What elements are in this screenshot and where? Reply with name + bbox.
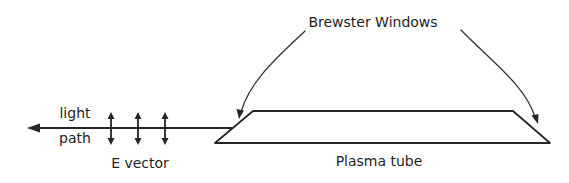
arrow-down-icon bbox=[532, 114, 539, 124]
path-label: path bbox=[59, 130, 91, 146]
left-window-pointer bbox=[237, 31, 306, 119]
right-window-pointer bbox=[461, 30, 539, 124]
brewster-window-laser-diagram: Brewster Windows light path E vector Pla… bbox=[0, 0, 569, 183]
right-pointer-curve bbox=[461, 30, 535, 117]
e-vector-label: E vector bbox=[111, 155, 169, 171]
light-path-arrow bbox=[27, 124, 232, 133]
arrow-down-icon bbox=[237, 109, 245, 119]
plasma-tube-shape bbox=[215, 111, 550, 143]
diagram-canvas: Brewster Windows light path E vector Pla… bbox=[0, 0, 569, 183]
light-label: light bbox=[59, 105, 91, 121]
arrow-left-icon bbox=[27, 124, 40, 133]
brewster-windows-label: Brewster Windows bbox=[308, 14, 437, 30]
plasma-tube-label: Plasma tube bbox=[336, 153, 423, 169]
left-pointer-curve bbox=[241, 31, 305, 112]
